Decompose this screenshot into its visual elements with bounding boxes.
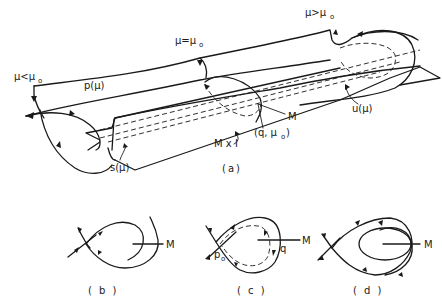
- label-mu-greater-mu0: μ>μ: [305, 7, 327, 18]
- label-mu-greater-sub: o: [330, 13, 334, 21]
- d-label-M: M: [424, 239, 433, 250]
- label-q-mu0: (q, μ: [254, 127, 278, 138]
- homoclinic-bifurcation-diagram: μ<μ o μ=μ o μ>μ o p(μ) u(μ) s(μ) (q, μ o…: [0, 0, 442, 307]
- b-label-M: M: [166, 239, 175, 250]
- d-arrow-5: [378, 220, 383, 226]
- arrow-middle-dashed: [204, 84, 210, 90]
- c-label-p0-sub: o: [221, 255, 225, 263]
- p-mu-curve: [26, 60, 330, 116]
- label-mu-equal-sub: o: [199, 41, 203, 49]
- middle-section-curve: [200, 58, 261, 122]
- plane-front-edge: [108, 119, 115, 160]
- label-mu-equal-mu0: μ=μ: [175, 35, 197, 46]
- figure-c: M q p o ( c ): [205, 217, 311, 296]
- figure-a: μ<μ o μ=μ o μ>μ o p(μ) u(μ) s(μ) (q, μ o…: [14, 7, 440, 174]
- arrow-loop-up: [56, 141, 61, 148]
- arrow-s-mu: [123, 143, 128, 148]
- figure-b: M ( b ): [68, 217, 175, 296]
- d-arrow-6: [398, 272, 403, 277]
- leader-M: [258, 104, 285, 114]
- caption-c: ( c ): [237, 285, 267, 296]
- label-q-mu0-sub: o: [281, 133, 285, 141]
- b-stable-line: [68, 235, 96, 257]
- c-arrow-2: [230, 224, 235, 230]
- c-label-M: M: [302, 235, 311, 246]
- arrow-middle-down: [197, 60, 203, 66]
- d-unstable-line: [322, 234, 332, 248]
- plane-m-x-i: [86, 67, 440, 170]
- arrow-left-end: [26, 112, 34, 119]
- figure-d: M ( d ): [318, 218, 433, 296]
- b-loop-upper: [78, 222, 143, 260]
- dashed-axis-2: [100, 62, 400, 138]
- c-arrow-3: [205, 254, 210, 260]
- label-q-mu0-close: ): [286, 127, 290, 138]
- label-m-x-i: M x I: [214, 138, 238, 149]
- c-arrow-6: [272, 250, 276, 256]
- left-loop: [26, 110, 112, 173]
- label-u-mu: u(μ): [352, 103, 373, 114]
- label-s-mu: s(μ): [110, 162, 129, 173]
- b-arrow-4: [98, 250, 102, 255]
- d-outer-loop: [332, 218, 412, 275]
- caption-b: ( b ): [88, 285, 119, 296]
- right-cap-curve: [300, 31, 415, 105]
- arrow-u-mu: [345, 84, 350, 90]
- arrow-right-dashed: [333, 29, 338, 35]
- label-mu-less-sub: o: [38, 77, 42, 85]
- b-loop-lower: [86, 217, 158, 268]
- caption-d: ( d ): [353, 285, 384, 296]
- label-mu-less-mu0: μ<μ: [14, 71, 36, 82]
- caption-a: (a): [222, 163, 242, 174]
- label-p-mu: p(μ): [84, 80, 105, 91]
- d-arrow-4: [362, 267, 367, 272]
- c-label-q: q: [280, 243, 286, 254]
- c-label-p0: p: [214, 249, 220, 260]
- leader-s-mu: [120, 146, 126, 160]
- label-M: M: [288, 111, 297, 122]
- c-dashed-loop: [220, 226, 270, 266]
